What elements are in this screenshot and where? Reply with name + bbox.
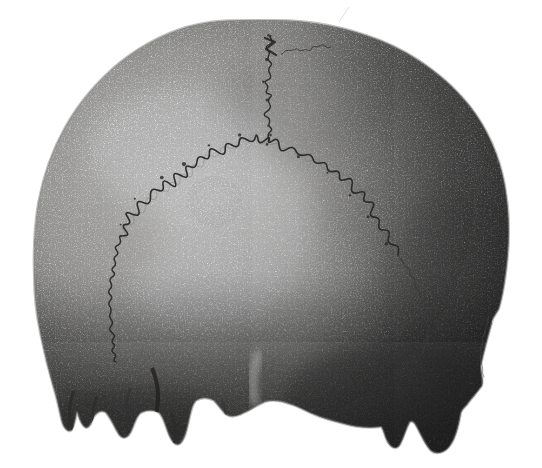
suture-knot (266, 98, 269, 101)
suture-knot (134, 198, 136, 200)
suture-knot (297, 155, 300, 158)
stipple-texture-coarse (34, 20, 509, 453)
suture-knot (267, 34, 270, 37)
suture-knot (266, 143, 269, 146)
suture-knot (349, 194, 351, 196)
suture-knot (267, 125, 269, 127)
suture-knot (182, 162, 186, 166)
suture-knot (262, 80, 265, 83)
suture-knot (269, 134, 272, 137)
suture-knot (160, 176, 164, 180)
suture-knot (265, 58, 269, 62)
suture-knot (367, 215, 370, 218)
suture-knot (384, 242, 387, 245)
suture-knot (120, 224, 122, 226)
suture-knot (208, 144, 210, 146)
suture-knot (327, 172, 329, 174)
engraving-plate (0, 0, 542, 468)
suture-knot (238, 133, 241, 136)
skull-illustration (0, 0, 542, 468)
stipple-texture-group (34, 20, 509, 453)
